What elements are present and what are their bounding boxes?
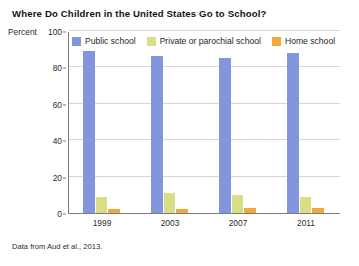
bar-public-1999[interactable] [83,51,95,213]
plot-wrapper [68,32,340,214]
bar-home-1999[interactable] [108,209,120,213]
legend-swatch-icon [72,37,81,46]
y-tick-label: 40 [53,136,62,146]
bar-private-2011[interactable] [300,197,312,213]
y-tick-mark [63,177,66,178]
bar-public-2007[interactable] [219,58,231,213]
bar-private-2007[interactable] [232,195,244,213]
legend-swatch-icon [147,37,156,46]
y-tick-mark [63,68,66,69]
chart-title: Where Do Children in the United States G… [12,8,267,19]
bar-group-1999 [83,31,121,213]
bar-home-2011[interactable] [312,208,324,213]
bar-public-2003[interactable] [151,56,163,213]
legend-item-public-school[interactable]: Public school [72,36,136,46]
legend-item-private-or-parochial-school[interactable]: Private or parochial school [147,36,261,46]
legend-swatch-icon [272,37,281,46]
chart-figure: Where Do Children in the United States G… [0,0,359,266]
x-tick-label: 2011 [297,218,315,228]
source-note: Data from Aud et al., 2013. [12,242,102,251]
bar-group-2011 [287,31,325,213]
x-tick-label: 2003 [161,218,180,228]
y-tick-mark [63,214,66,215]
y-tick-mark [63,32,66,33]
legend-item-home-school[interactable]: Home school [272,36,335,46]
y-tick-label: 0 [57,209,62,219]
y-axis: 020406080100 [0,32,66,214]
legend-label: Public school [85,36,136,46]
x-tick-label: 1999 [93,218,112,228]
x-axis: 1999200320072011 [68,216,340,232]
bar-private-2003[interactable] [164,193,176,213]
y-tick-label: 80 [53,63,62,73]
y-tick-label: 60 [53,100,62,110]
bar-private-1999[interactable] [96,197,108,213]
y-tick-mark [63,104,66,105]
x-tick-label: 2007 [229,218,248,228]
bar-group-2003 [151,31,189,213]
y-tick-mark [63,141,66,142]
bar-home-2003[interactable] [176,209,188,213]
legend-label: Private or parochial school [160,36,261,46]
legend-label: Home school [285,36,335,46]
bar-home-2007[interactable] [244,208,256,213]
chart-legend: Public schoolPrivate or parochial school… [72,34,346,48]
bar-public-2011[interactable] [287,53,299,213]
bar-group-2007 [219,31,257,213]
y-tick-label: 20 [53,173,62,183]
y-tick-label: 100 [48,27,62,37]
